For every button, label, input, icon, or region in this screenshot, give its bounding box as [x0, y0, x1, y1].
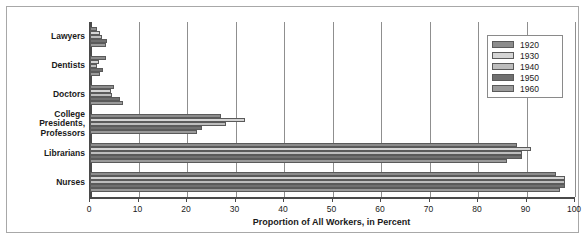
- category-label-line: Librarians: [9, 149, 85, 158]
- bar: [90, 72, 100, 76]
- x-tick: [332, 197, 333, 202]
- x-tick: [138, 197, 139, 202]
- category-label-line: Dentists: [9, 61, 85, 70]
- legend-item: 1930: [492, 50, 558, 61]
- category-label: Doctors: [9, 90, 89, 99]
- legend: 19201930194019501960: [487, 35, 563, 98]
- category-label: CollegePresidents,Professors: [9, 110, 89, 138]
- x-tick: [477, 197, 478, 202]
- x-tick-label: 50: [317, 204, 347, 214]
- x-tick-label: 40: [268, 204, 298, 214]
- bar-group: [90, 168, 574, 197]
- x-tick-label: 90: [511, 204, 541, 214]
- x-tick: [429, 197, 430, 202]
- category-label-line: Lawyers: [9, 32, 85, 41]
- x-tick-label: 60: [365, 204, 395, 214]
- category-axis: LawyersDentistsDoctorsCollegePresidents,…: [7, 22, 89, 197]
- x-tick: [186, 197, 187, 202]
- legend-item: 1960: [492, 83, 558, 94]
- legend-label: 1950: [520, 73, 539, 83]
- category-label-line: Doctors: [9, 90, 85, 99]
- bar: [90, 159, 507, 163]
- x-tick: [526, 197, 527, 202]
- legend-label: 1960: [520, 84, 539, 94]
- legend-item: 1920: [492, 39, 558, 50]
- chart-container: LawyersDentistsDoctorsCollegePresidents,…: [6, 6, 579, 233]
- x-tick-label: 70: [414, 204, 444, 214]
- bar: [90, 101, 123, 105]
- legend-label: 1920: [520, 40, 539, 50]
- x-tick-label: 30: [220, 204, 250, 214]
- legend-label: 1940: [520, 62, 539, 72]
- legend-label: 1930: [520, 51, 539, 61]
- legend-swatch: [492, 52, 514, 59]
- bar-group: [90, 139, 574, 168]
- category-label-line: Professors: [9, 129, 85, 138]
- x-tick-label: 80: [462, 204, 492, 214]
- legend-item: 1940: [492, 61, 558, 72]
- legend-swatch: [492, 41, 514, 48]
- x-tick: [89, 197, 90, 202]
- x-tick: [235, 197, 236, 202]
- legend-swatch: [492, 85, 514, 92]
- x-tick-label: 10: [123, 204, 153, 214]
- category-label: Nurses: [9, 178, 89, 187]
- legend-swatch: [492, 63, 514, 70]
- x-tick: [380, 197, 381, 202]
- x-tick: [574, 197, 575, 202]
- x-tick-label: 100: [559, 204, 587, 214]
- bar-group: [90, 110, 574, 139]
- x-axis-title: Proportion of All Workers, in Percent: [89, 217, 574, 227]
- bar: [90, 188, 560, 192]
- bar: [90, 130, 197, 134]
- category-label-line: Nurses: [9, 178, 85, 187]
- category-label: Dentists: [9, 61, 89, 70]
- bar: [90, 43, 106, 47]
- gridline-100: [575, 22, 576, 197]
- legend-item: 1950: [492, 72, 558, 83]
- x-tick: [283, 197, 284, 202]
- x-tick-label: 20: [171, 204, 201, 214]
- category-label: Lawyers: [9, 32, 89, 41]
- x-tick-label: 0: [74, 204, 104, 214]
- legend-swatch: [492, 74, 514, 81]
- category-label: Librarians: [9, 149, 89, 158]
